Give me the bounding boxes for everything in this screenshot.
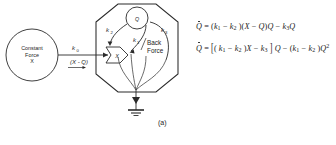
rate-equation-2: Q = [( k1 − k2 )X − k3 ] Q − (k1 − k2 )Q…: [196, 43, 336, 54]
direction-arrowhead: [83, 66, 87, 69]
constant-force-source: Constant Force X: [6, 29, 58, 81]
panel-label: (a): [158, 119, 167, 127]
ground-sink: [128, 110, 144, 116]
input-flow-expression: (X - Q): [70, 59, 88, 65]
back-force-line1: Back: [147, 39, 162, 46]
back-force-slash: [141, 38, 146, 50]
sink-arrowhead: [132, 97, 140, 104]
quantity-label: Q: [135, 16, 140, 22]
back-force-annotation: Back Force: [141, 38, 164, 54]
rate-k2-path: k 2: [106, 24, 127, 46]
outflow-curve-4: [136, 60, 166, 90]
rate-k2-subscript: 2: [111, 30, 114, 35]
figure-container: Constant Force X k 0 (X - Q) X Q: [0, 0, 336, 145]
input-rate-label: k 0: [72, 44, 80, 53]
quantity-node: Q: [126, 7, 148, 29]
rate-k0-symbol: k: [72, 44, 76, 51]
force-gate: X: [106, 47, 128, 63]
k2-arrowhead: [108, 41, 113, 46]
outflow-curve-2: [131, 54, 136, 90]
rate-k0-subscript: 0: [77, 48, 80, 53]
back-force-line2: Force: [147, 47, 164, 54]
outflow-curves: [118, 54, 166, 110]
rate-k3-subscript: 3: [165, 30, 168, 35]
source-label-line3: X: [30, 58, 34, 64]
source-label-line2: Force: [25, 52, 39, 58]
outflow-curve-3: [136, 56, 146, 90]
input-flow-arrowhead: [103, 53, 108, 58]
rate-equation-1: Q = (k1 − k2 )(X − Q)Q − k3Q: [196, 22, 336, 32]
source-label-line1: Constant: [21, 45, 43, 51]
rate-k2-symbol: k: [106, 26, 110, 33]
equations-block: Q = (k1 − k2 )(X − Q)Q − k3Q Q = [( k1 −…: [196, 22, 336, 54]
